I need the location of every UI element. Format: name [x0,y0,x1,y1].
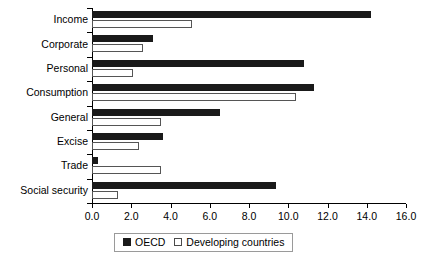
bar-developing-personal [92,69,133,77]
x-tick-mark [249,204,250,208]
x-axis-tick-label: 12.0 [308,210,348,222]
x-axis-tick-label: 4.0 [151,210,191,222]
legend-swatch-developing-countries [174,238,182,246]
bar-group-income [92,8,406,32]
bar-group-social-security [92,179,406,203]
bar-group-consumption [92,81,406,105]
bar-developing-social-security [92,191,118,199]
x-tick-mark [92,204,93,208]
bar-oecd-consumption [92,84,314,91]
x-tick-mark [171,204,172,208]
bar-group-general [92,106,406,130]
y-axis-label-consumption: Consumption [2,86,88,98]
bar-developing-income [92,20,192,28]
bar-developing-corporate [92,44,143,52]
bar-developing-general [92,118,161,126]
y-axis-label-general: General [2,111,88,123]
bar-group-corporate [92,32,406,56]
bar-oecd-income [92,11,371,18]
bar-developing-trade [92,166,161,174]
x-axis-tick-label: 8.0 [229,210,269,222]
bar-oecd-social-security [92,182,276,189]
y-axis-label-trade: Trade [2,159,88,171]
legend-label-developing-countries: Developing countries [186,236,284,248]
y-axis-label-personal: Personal [2,62,88,74]
x-tick-mark [406,204,407,208]
bar-oecd-corporate [92,35,153,42]
bar-developing-consumption [92,93,296,101]
legend-label-oecd: OECD [135,236,165,248]
legend-swatch-oecd [123,238,131,246]
bar-group-excise [92,130,406,154]
bar-chart: IncomeCorporatePersonalConsumptionGenera… [0,0,428,269]
x-axis-tick-label: 16.0 [386,210,426,222]
x-tick-mark [328,204,329,208]
bar-oecd-excise [92,133,163,140]
x-tick-mark [210,204,211,208]
bar-group-trade [92,154,406,178]
bar-oecd-personal [92,60,304,67]
bar-oecd-trade [92,157,98,164]
x-axis-tick-label: 6.0 [190,210,230,222]
legend-item-oecd: OECD [123,236,165,248]
plot-area [92,8,406,203]
bar-group-personal [92,57,406,81]
legend-item-developing-countries: Developing countries [174,236,284,248]
x-tick-mark [367,204,368,208]
y-axis-label-corporate: Corporate [2,38,88,50]
y-axis-label-income: Income [2,13,88,25]
x-tick-mark [131,204,132,208]
x-tick-mark [288,204,289,208]
bar-oecd-general [92,109,220,116]
x-axis-tick-label: 14.0 [347,210,387,222]
x-axis-tick-label: 2.0 [111,210,151,222]
y-axis-category-labels: IncomeCorporatePersonalConsumptionGenera… [0,8,88,203]
chart-legend: OECD Developing countries [114,233,293,252]
bar-developing-excise [92,142,139,150]
x-axis-tick-label: 0.0 [72,210,112,222]
x-axis-tick-label: 10.0 [268,210,308,222]
y-axis-label-social-security: Social security [2,184,88,196]
y-axis-label-excise: Excise [2,135,88,147]
